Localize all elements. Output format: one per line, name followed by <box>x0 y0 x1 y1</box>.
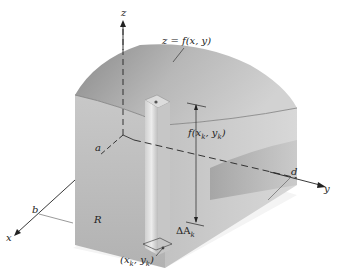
point-label: (xk, yk) <box>120 255 154 268</box>
y-axis-label: y <box>324 184 330 194</box>
area-label: ΔAk <box>176 226 195 239</box>
sample-point-top <box>154 100 157 103</box>
bound-b-line <box>39 214 73 223</box>
bound-b-label: b <box>32 205 38 215</box>
z-axis-label: z <box>121 8 126 18</box>
column-right-face <box>158 102 170 255</box>
height-label: f(xk, yk) <box>188 128 226 141</box>
column-left-face <box>145 100 158 255</box>
x-axis <box>18 180 75 232</box>
region-label: R <box>94 215 102 225</box>
z-axis-arrow <box>120 20 126 27</box>
bound-d-label: d <box>291 167 297 177</box>
bound-a-label: a <box>95 143 101 153</box>
surface-label: z = f(x, y) <box>162 36 211 46</box>
x-axis-label: x <box>6 233 12 243</box>
